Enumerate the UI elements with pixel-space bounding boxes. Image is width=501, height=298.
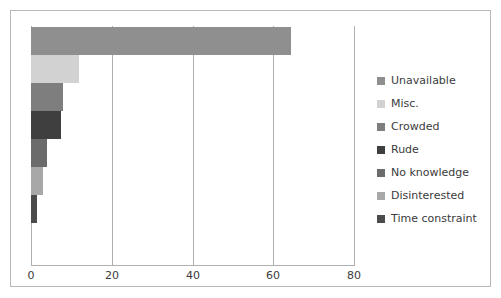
chart-legend: UnavailableMisc.CrowdedRudeNo knowledgeD… [377, 69, 489, 230]
legend-item-no-knowledge[interactable]: No knowledge [377, 161, 489, 184]
legend-item-rude[interactable]: Rude [377, 138, 489, 161]
legend-item-unavailable[interactable]: Unavailable [377, 69, 489, 92]
legend-label: Misc. [391, 98, 419, 109]
legend-swatch-icon [377, 192, 385, 200]
bar-misc- [31, 55, 79, 83]
bar-row [31, 27, 354, 55]
x-axis-line [31, 265, 354, 266]
bar-row [31, 195, 354, 223]
legend-item-misc-[interactable]: Misc. [377, 92, 489, 115]
bar-row [31, 83, 354, 111]
bar-no-knowledge [31, 139, 47, 167]
bar-row [31, 55, 354, 83]
legend-swatch-icon [377, 100, 385, 108]
legend-label: Unavailable [391, 75, 456, 86]
legend-swatch-icon [377, 77, 385, 85]
bar-unavailable [31, 27, 291, 55]
legend-item-time-constraint[interactable]: Time constraint [377, 207, 489, 230]
gridline-80 [354, 26, 355, 266]
legend-label: Disinterested [391, 190, 464, 201]
bar-crowded [31, 83, 63, 111]
bar-disinterested [31, 167, 43, 195]
x-axis-tick-labels: 020406080 [31, 269, 354, 289]
chart-frame: 020406080 UnavailableMisc.CrowdedRudeNo … [10, 10, 491, 287]
x-tick-label: 60 [266, 269, 280, 282]
bar-rude [31, 111, 61, 139]
legend-label: Rude [391, 144, 419, 155]
x-tick-label: 80 [347, 269, 361, 282]
x-tick-label: 20 [105, 269, 119, 282]
legend-item-disinterested[interactable]: Disinterested [377, 184, 489, 207]
legend-swatch-icon [377, 123, 385, 131]
legend-swatch-icon [377, 169, 385, 177]
legend-label: No knowledge [391, 167, 469, 178]
bar-time-constraint [31, 195, 37, 223]
bar-row [31, 139, 354, 167]
x-tick-label: 0 [28, 269, 35, 282]
plot-area [31, 26, 354, 266]
legend-label: Crowded [391, 121, 439, 132]
legend-swatch-icon [377, 146, 385, 154]
legend-label: Time constraint [391, 213, 477, 224]
bar-row [31, 167, 354, 195]
legend-swatch-icon [377, 215, 385, 223]
bar-row [31, 111, 354, 139]
x-tick-label: 40 [186, 269, 200, 282]
bar-series [31, 26, 354, 265]
legend-item-crowded[interactable]: Crowded [377, 115, 489, 138]
